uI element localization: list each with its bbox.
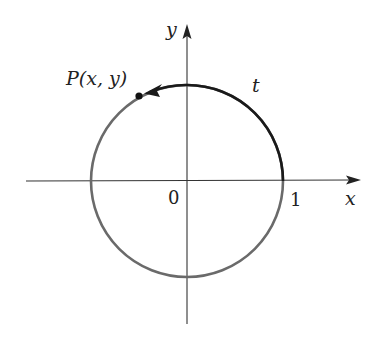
arc-t-label: t: [252, 74, 260, 96]
x-axis-label: x: [345, 187, 356, 209]
point-p: [135, 92, 142, 99]
arc-t: [150, 85, 283, 181]
origin-label: 0: [168, 187, 179, 208]
x-axis: [26, 180, 352, 181]
unit-circle-diagram: P(x, y) t y x 0 1: [0, 0, 387, 337]
unit-tick-label: 1: [290, 189, 301, 210]
y-axis-label: y: [165, 18, 177, 40]
point-p-label: P(x, y): [65, 67, 127, 89]
